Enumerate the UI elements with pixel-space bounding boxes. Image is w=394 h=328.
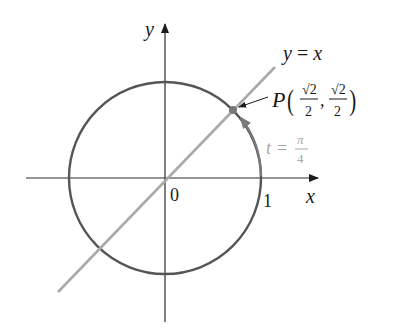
y-axis-label: y [143, 18, 154, 41]
svg-text:t: t [266, 138, 272, 158]
x-axis-label: x [305, 185, 315, 207]
svg-text:π: π [297, 132, 304, 147]
arc-arrow-icon [241, 118, 261, 176]
point-p [229, 106, 237, 114]
line-y-equals-x [58, 67, 275, 292]
svg-text:=: = [277, 138, 287, 158]
svg-text:2: 2 [305, 104, 312, 119]
svg-text:√2: √2 [302, 82, 317, 97]
angle-label: t = π 4 [266, 132, 308, 166]
origin-label: 0 [170, 185, 179, 205]
svg-text:(: ( [287, 83, 294, 117]
svg-text:): ) [349, 83, 356, 117]
svg-text:P: P [271, 87, 285, 112]
tick-1-label: 1 [263, 191, 272, 211]
svg-text:,: , [320, 90, 325, 110]
line-label: y = x [281, 42, 322, 65]
point-p-label: P ( √2 2 , √2 2 ) [271, 82, 356, 119]
unit-circle-diagram: y x 0 1 y = x P ( √2 2 , √2 2 ) t = π 4 [0, 0, 394, 328]
svg-text:2: 2 [334, 104, 341, 119]
svg-text:4: 4 [297, 151, 304, 166]
svg-text:√2: √2 [331, 82, 346, 97]
